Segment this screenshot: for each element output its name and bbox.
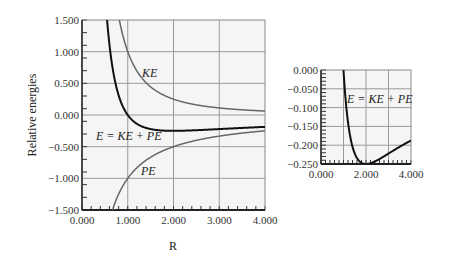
- x-tick-label: 4.000: [399, 168, 424, 180]
- annotation-ke: KE: [141, 66, 158, 80]
- y-axis-label: Relative energies: [25, 73, 39, 156]
- x-tick-label: 4.000: [253, 214, 278, 226]
- y-tick-label: −0.200: [287, 139, 318, 151]
- annotation-e-inset: E = KE + PE: [346, 92, 413, 106]
- y-tick-label: 1.500: [54, 14, 79, 26]
- y-tick-label: −1.500: [48, 204, 79, 216]
- y-tick-label: −0.250: [287, 158, 318, 170]
- y-tick-label: −0.100: [287, 102, 318, 114]
- x-tick-label: 2.000: [354, 168, 379, 180]
- x-tick-label: 1.000: [115, 214, 140, 226]
- annotation-pe: PE: [140, 164, 156, 178]
- energy-chart: 0.0001.0002.0003.0004.0001.5001.0000.500…: [0, 0, 449, 267]
- y-tick-label: −0.500: [48, 141, 79, 153]
- x-axis-label: R: [169, 239, 177, 253]
- x-tick-label: 3.000: [207, 214, 232, 226]
- y-tick-label: −0.150: [287, 120, 318, 132]
- y-tick-label: −1.000: [48, 172, 79, 184]
- annotation-e: E = KE + PE: [95, 129, 162, 143]
- y-tick-label: 0.500: [54, 77, 79, 89]
- y-tick-label: 0.000: [293, 64, 318, 76]
- main-plot: 0.0001.0002.0003.0004.0001.5001.0000.500…: [25, 0, 278, 256]
- y-tick-label: 1.000: [54, 46, 79, 58]
- x-tick-label: 2.000: [161, 214, 186, 226]
- y-tick-label: 0.000: [54, 109, 79, 121]
- y-tick-label: −0.050: [287, 83, 318, 95]
- inset-plot: 0.0002.0004.0000.000−0.050−0.100−0.150−0…: [287, 0, 424, 180]
